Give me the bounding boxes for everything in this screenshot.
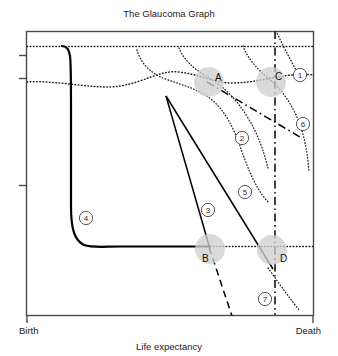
x-axis-end-label: Death — [296, 325, 321, 336]
marker-6: 6 — [296, 117, 309, 130]
marker-4-label: 4 — [84, 214, 89, 223]
marker-5: 5 — [238, 185, 251, 198]
point-label-d: D — [280, 253, 287, 264]
point-label-c: C — [275, 71, 282, 82]
dotted-tail-lower-right — [268, 268, 299, 310]
marker-7: 7 — [258, 292, 271, 305]
glaucoma-graph-figure: The Glaucoma Graph — [0, 0, 338, 356]
marker-2-label: 2 — [240, 134, 245, 143]
y-axis-ticks — [19, 56, 27, 186]
marker-5-label: 5 — [243, 188, 248, 197]
x-axis-label: Life expectancy — [136, 341, 202, 352]
halo-point-b — [195, 234, 225, 264]
marker-4: 4 — [79, 211, 92, 224]
point-label-a: A — [215, 72, 222, 83]
point-label-b: B — [202, 253, 209, 264]
dotted-curve-far-right — [276, 31, 296, 70]
chart-title: The Glaucoma Graph — [123, 8, 214, 19]
marker-2: 2 — [235, 131, 248, 144]
marker-1: 1 — [293, 68, 306, 81]
marker-6-label: 6 — [301, 120, 306, 129]
line-3-steep-progression — [166, 96, 210, 249]
x-axis-ticks — [27, 316, 313, 324]
x-axis-start-label: Birth — [19, 325, 39, 336]
marker-3: 3 — [201, 203, 214, 216]
dotted-curve-center — [179, 48, 268, 168]
marker-7-label: 7 — [263, 295, 268, 304]
marker-3-label: 3 — [206, 206, 211, 215]
marker-1-label: 1 — [298, 71, 303, 80]
